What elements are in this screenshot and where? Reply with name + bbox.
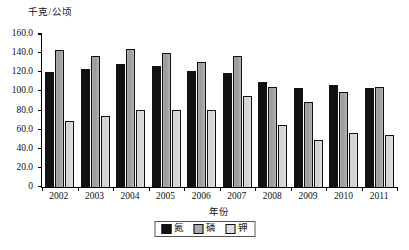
bar [91,56,100,187]
x-axis-tick-label: 2010 [326,191,362,201]
bar-group [42,34,78,187]
bar [45,72,54,187]
bar [55,50,64,187]
x-axis-tick-label: 2002 [41,191,77,201]
y-axis-tick-label: 100.0 [12,87,33,97]
x-axis-tick-label: 2008 [255,191,291,201]
bar [65,121,74,187]
legend-label: 氮 [174,224,184,234]
bar [294,88,303,187]
bar-group [326,34,362,187]
x-axis-tick [397,187,398,191]
bar [385,135,394,187]
bar-group [149,34,185,187]
x-axis-tick-label: 2009 [290,191,326,201]
legend-item: 氮 [161,224,184,234]
bar [365,88,374,187]
bar-group [184,34,220,187]
y-axis-tick-label: 160.0 [12,29,33,39]
bar [136,110,145,187]
x-axis-tick-labels: 2002200320042005200620072008200920102011 [41,191,397,201]
bar [268,87,277,187]
bar [314,140,323,187]
bar [339,92,348,187]
legend-label: 磷 [206,224,216,234]
legend-item: 钾 [225,224,248,234]
chart-legend: 氮磷钾 [154,221,255,237]
y-axis-tick-label: 140.0 [12,48,33,58]
y-axis-title: 千克/公顷 [28,4,72,18]
bar [329,85,338,188]
bar-group [255,34,291,187]
legend-label: 钾 [238,224,248,234]
bar [349,133,358,188]
bar [187,71,196,187]
bar-group [291,34,327,187]
x-axis-tick-label: 2006 [183,191,219,201]
bar [233,56,242,187]
bar-group [78,34,114,187]
bar-group [362,34,398,187]
x-axis-title: 年份 [41,204,397,218]
bar [101,116,110,187]
bar [162,53,171,187]
bar [81,69,90,187]
y-axis-tick-label: 80.0 [16,106,33,116]
x-axis-tick-label: 2005 [148,191,184,201]
bar [375,87,384,187]
bar [304,102,313,187]
bar [207,110,216,187]
bar [278,125,287,187]
x-axis-tick-label: 2003 [77,191,113,201]
bar [197,62,206,187]
bar [243,96,252,187]
bar [116,64,125,187]
legend-swatch-icon [161,224,171,234]
bar [172,110,181,187]
bar [223,73,232,187]
y-axis-tick-label: 0 [28,182,33,192]
y-axis-tick-label: 120.0 [12,68,33,78]
bar [126,49,135,187]
y-axis-tick-label: 20.0 [16,163,33,173]
legend-swatch-icon [193,224,203,234]
bar-group [220,34,256,187]
y-axis-tick-label: 40.0 [16,144,33,154]
x-axis-tick-label: 2007 [219,191,255,201]
x-axis-tick-label: 2004 [112,191,148,201]
fertilizer-usage-bar-chart: 千克/公顷 020.040.060.080.0100.0120.0140.016… [0,0,409,250]
bar [152,66,161,187]
plot-area: 020.040.060.080.0100.0120.0140.0160.0 [41,34,397,188]
legend-item: 磷 [193,224,216,234]
bar [258,82,267,187]
bar-groups [42,34,397,187]
bar-group [113,34,149,187]
legend-swatch-icon [225,224,235,234]
x-axis-tick-label: 2011 [361,191,397,201]
y-axis-tick-label: 60.0 [16,125,33,135]
